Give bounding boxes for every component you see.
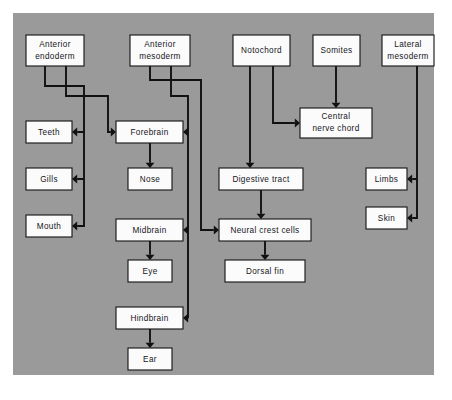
- node-hindbrain[interactable]: Hindbrain: [116, 307, 183, 329]
- node-notochord[interactable]: Notochord: [233, 35, 290, 66]
- node-eye[interactable]: Eye: [128, 260, 172, 282]
- node-label-forebrain: Forebrain: [130, 128, 168, 137]
- node-forebrain[interactable]: Forebrain: [116, 121, 183, 143]
- node-neural-crest-cells[interactable]: Neural crest cells: [219, 219, 311, 241]
- node-label-anterior-endoderm-line1: Anterior: [39, 40, 70, 49]
- node-label-ear: Ear: [143, 355, 157, 364]
- node-gills[interactable]: Gills: [26, 168, 72, 190]
- node-label-digestive-tract: Digestive tract: [232, 175, 289, 184]
- flowchart-canvas: AnteriorendodermAnteriormesodermNotochor…: [0, 0, 452, 400]
- node-label-midbrain: Midbrain: [132, 226, 166, 235]
- node-digestive-tract[interactable]: Digestive tract: [219, 168, 303, 190]
- node-midbrain[interactable]: Midbrain: [116, 219, 183, 241]
- node-label-mouth: Mouth: [37, 222, 62, 231]
- node-label-hindbrain: Hindbrain: [130, 314, 168, 323]
- node-label-lateral-mesoderm-line2: mesoderm: [387, 52, 428, 61]
- node-label-lateral-mesoderm-line1: Lateral: [394, 40, 421, 49]
- node-mouth[interactable]: Mouth: [26, 215, 72, 237]
- node-central-nerve-chord[interactable]: Centralnerve chord: [300, 108, 372, 138]
- node-label-dorsal-fin: Dorsal fin: [246, 267, 284, 276]
- node-label-notochord: Notochord: [241, 46, 282, 55]
- node-limbs[interactable]: Limbs: [366, 168, 407, 190]
- node-label-anterior-mesoderm-line2: mesoderm: [139, 52, 180, 61]
- node-dorsal-fin[interactable]: Dorsal fin: [225, 260, 305, 282]
- node-label-nose: Nose: [140, 175, 161, 184]
- node-label-teeth: Teeth: [38, 128, 60, 137]
- node-label-neural-crest-cells: Neural crest cells: [230, 226, 299, 235]
- node-skin[interactable]: Skin: [366, 207, 407, 229]
- node-label-limbs: Limbs: [375, 175, 399, 184]
- node-label-gills: Gills: [40, 175, 58, 184]
- node-ear[interactable]: Ear: [128, 348, 172, 370]
- node-somites[interactable]: Somites: [313, 35, 360, 66]
- flowchart-figure: AnteriorendodermAnteriormesodermNotochor…: [0, 0, 452, 400]
- node-label-central-nerve-chord-line2: nerve chord: [312, 124, 359, 133]
- node-label-eye: Eye: [142, 267, 157, 276]
- node-label-anterior-endoderm-line2: endoderm: [35, 52, 75, 61]
- diagram-panel-background: [13, 13, 434, 375]
- node-anterior-endoderm[interactable]: Anteriorendoderm: [26, 35, 84, 66]
- node-anterior-mesoderm[interactable]: Anteriormesoderm: [130, 35, 190, 66]
- node-label-somites: Somites: [320, 46, 352, 55]
- node-teeth[interactable]: Teeth: [26, 121, 72, 143]
- node-label-skin: Skin: [378, 214, 395, 223]
- node-nose[interactable]: Nose: [128, 168, 172, 190]
- node-label-central-nerve-chord-line1: Central: [322, 112, 351, 121]
- node-label-anterior-mesoderm-line1: Anterior: [144, 40, 175, 49]
- node-lateral-mesoderm[interactable]: Lateralmesoderm: [382, 35, 434, 66]
